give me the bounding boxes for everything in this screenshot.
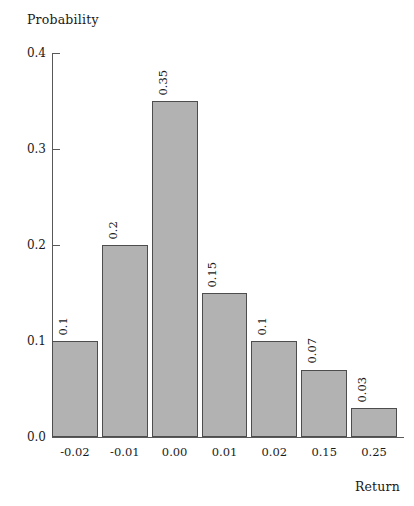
bar[interactable] (251, 341, 297, 437)
bar[interactable] (52, 341, 98, 437)
bar-slot: 0.35 (152, 53, 198, 437)
bar-slot: 0.07 (301, 53, 347, 437)
bar-value-label: 0.07 (307, 338, 319, 364)
y-axis-tick-label: 0.4 (0, 47, 46, 59)
bar[interactable] (202, 293, 248, 437)
bar[interactable] (351, 408, 397, 437)
bar[interactable] (301, 370, 347, 437)
y-axis-tick-label: 0.1 (0, 335, 46, 347)
bar[interactable] (152, 101, 198, 437)
bar[interactable] (102, 245, 148, 437)
bar-slot: 0.1 (251, 53, 297, 437)
y-axis-tick-label: 0.0 (0, 431, 46, 443)
bar-slot: 0.2 (102, 53, 148, 437)
bar-value-label: 0.1 (257, 317, 269, 335)
bar-slot: 0.03 (351, 53, 397, 437)
plot-area: 0.10.20.350.150.10.070.03 (52, 53, 401, 437)
bar-slot: 0.15 (202, 53, 248, 437)
x-axis-title: Return (0, 479, 400, 494)
x-axis-tick-label: 0.25 (344, 446, 404, 458)
y-axis-tick (53, 437, 60, 438)
y-axis-title: Probability (27, 12, 99, 27)
bar-slot: 0.1 (52, 53, 98, 437)
bar-value-label: 0.03 (357, 377, 369, 403)
bar-value-label: 0.15 (207, 261, 219, 287)
probability-return-bar-chart: Probability 0.40.30.20.10.0 0.10.20.350.… (0, 0, 414, 506)
y-axis-tick-label: 0.3 (0, 143, 46, 155)
bar-value-label: 0.2 (107, 221, 119, 239)
bar-value-label: 0.1 (57, 317, 69, 335)
x-axis-line (52, 437, 404, 438)
bar-value-label: 0.35 (157, 69, 169, 95)
y-axis-tick-label: 0.2 (0, 239, 46, 251)
